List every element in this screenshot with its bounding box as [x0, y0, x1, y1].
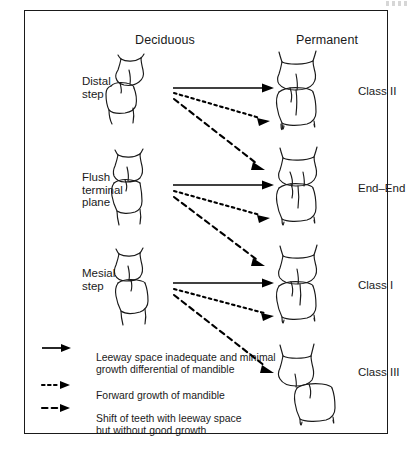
arrow-mesial-to-class-i	[173, 279, 274, 288]
tooth-diagram-class-i	[277, 245, 317, 323]
arrow-mesial-to-class-iii-dashed	[174, 295, 274, 373]
tooth-diagram-class-iii	[279, 344, 336, 425]
scan-artifact	[386, 1, 408, 6]
legend-marker-dotted-arrow	[42, 381, 70, 389]
arrow-distal-to-end-end-dotted	[174, 93, 270, 126]
tooth-diagram-end-end	[277, 147, 317, 225]
legend-marker-dashed-arrow	[42, 404, 70, 412]
arrow-distal-to-class-ii	[173, 84, 274, 93]
arrow-flush-to-class-i-dashed	[174, 197, 265, 266]
tooth-diagram-flush-terminal-plane	[112, 149, 143, 225]
arrow-mesial-to-class-iii-dotted	[174, 289, 274, 321]
arrow-flush-to-end-end	[173, 181, 274, 190]
tooth-diagram-class-ii	[277, 51, 316, 130]
arrow-distal-to-end-end-dashed	[174, 99, 265, 170]
tooth-diagram-mesial-step	[114, 248, 148, 325]
figure-artwork	[0, 0, 410, 458]
legend-marker-solid-arrow	[42, 344, 71, 352]
arrow-flush-to-class-i-dotted	[174, 191, 270, 223]
tooth-diagram-distal-step	[106, 54, 144, 124]
